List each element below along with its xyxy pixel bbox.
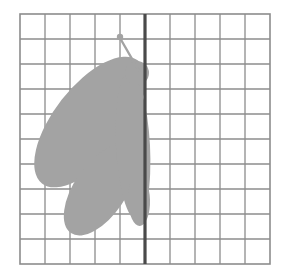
symmetry-worksheet-figure (0, 0, 286, 274)
worksheet-canvas (0, 0, 286, 274)
antenna-tip (117, 34, 123, 40)
